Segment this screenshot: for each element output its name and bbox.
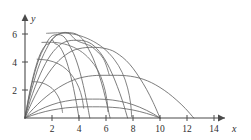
- x-tick-label: 4: [77, 124, 82, 134]
- y-tick-label-group: 246: [12, 30, 17, 96]
- y-axis-label: y: [30, 13, 36, 24]
- chart-canvas: 2468101214 246 x y: [0, 0, 251, 140]
- x-tick-label: 6: [104, 124, 109, 134]
- x-tick-label: 10: [155, 124, 165, 134]
- x-tick-label: 12: [182, 124, 192, 134]
- cross-curve: [32, 82, 62, 113]
- y-tick-label: 2: [12, 86, 17, 96]
- trajectory-curve: [25, 107, 160, 118]
- y-axis-arrow-icon: [22, 14, 29, 21]
- projectile-trajectories-figure: 2468101214 246 x y: [0, 0, 251, 140]
- x-tick-label: 14: [209, 124, 219, 134]
- x-tick-label: 2: [50, 124, 55, 134]
- trajectory-curve: [25, 75, 194, 118]
- x-tick-label-group: 2468101214: [50, 124, 219, 134]
- y-tick-label: 4: [12, 58, 17, 68]
- y-tick-label: 6: [12, 30, 17, 40]
- x-axis-label: x: [231, 123, 237, 134]
- x-axis-arrow-icon: [218, 115, 225, 122]
- x-tick-label: 8: [131, 124, 136, 134]
- trajectory-curve: [25, 99, 160, 118]
